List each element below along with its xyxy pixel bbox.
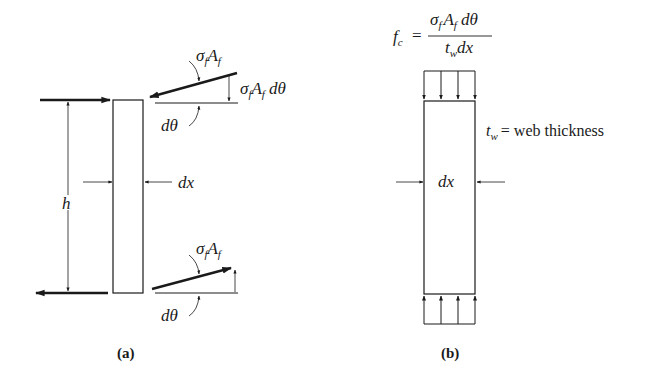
bottom-angle-label: dθ xyxy=(161,306,178,325)
formula-lhs: fc xyxy=(393,27,403,48)
dx-label-b: dx xyxy=(438,172,455,191)
height-label: h xyxy=(62,194,71,213)
top-angle-label: dθ xyxy=(161,116,178,135)
formula-equals: = xyxy=(412,26,422,45)
bottom-inclined-force-arrow xyxy=(152,268,231,289)
top-distributed-load xyxy=(424,71,475,99)
bottom-angle-leader xyxy=(189,296,199,316)
bottom-force-label: σfAf xyxy=(196,239,223,260)
formula-numerator: σfAfdθ xyxy=(430,10,478,31)
panel-a: h dx σfAf σfAfdθ dθ σfAf dθ (a) xyxy=(36,46,286,362)
top-angle-leader xyxy=(189,106,199,126)
flange-force-diagram: h dx σfAf σfAfdθ dθ σfAf dθ (a) xyxy=(0,0,659,381)
web-element-a xyxy=(113,100,143,293)
panel-b: fc = σfAfdθ twdx xyxy=(393,10,604,362)
dx-label-a: dx xyxy=(178,173,195,192)
top-component-label: σfAfdθ xyxy=(240,79,286,100)
top-force-label: σfAf xyxy=(196,46,223,67)
web-thickness-note: tw= web thickness xyxy=(486,122,604,142)
formula-denominator: twdx xyxy=(445,38,474,59)
web-element-b xyxy=(424,101,475,294)
caption-b: (b) xyxy=(441,345,459,362)
bottom-distributed-load xyxy=(424,296,475,324)
top-inclined-force-arrow xyxy=(150,73,237,97)
compressive-stress-formula: fc = σfAfdθ twdx xyxy=(393,10,492,59)
caption-a: (a) xyxy=(117,345,135,362)
